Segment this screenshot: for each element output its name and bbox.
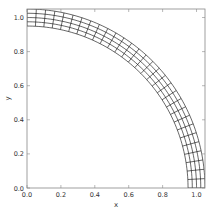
y-tick-label: 0.4 [14,116,24,124]
y-tick-label: 0.8 [14,48,24,56]
y-tick-label: 0.2 [14,150,24,158]
mesh-spoke [69,15,73,31]
y-tick-label: 0.6 [14,82,24,90]
mesh-spoke [135,55,146,68]
mesh-spoke [157,83,171,93]
x-tick-label: 0.2 [56,191,66,199]
x-tick-label: 0.4 [90,191,100,199]
mesh-ring [27,9,205,188]
mesh-spoke [170,107,185,115]
y-tick-label: 1.0 [14,14,24,22]
mesh-ring [27,13,201,188]
mesh-ring [27,22,192,188]
mesh-spoke [122,43,132,57]
x-tick-label: 1.0 [191,191,201,199]
mesh-ring [27,26,188,188]
x-tick-label: 0.8 [157,191,167,199]
y-tick-label: 0.0 [14,185,24,193]
mesh-spoke [128,49,139,62]
x-axis-label: x [114,201,118,209]
axis-ticks: 0.00.20.40.60.81.00.00.20.40.60.81.0 [14,9,205,199]
mesh-spoke [183,142,199,146]
mesh-spoke [180,133,196,138]
mesh-plot: 0.00.20.40.60.81.00.00.20.40.60.81.0 x y [0,0,218,216]
mesh-spoke [147,68,160,79]
mesh-ring [27,18,197,188]
mesh-spoke [77,18,82,34]
x-tick-label: 0.6 [124,191,134,199]
y-axis-label: y [4,96,12,100]
axes-frame [27,9,205,188]
mesh-spoke [100,29,108,44]
mesh-spoke [152,75,165,86]
annulus-mesh [27,9,205,188]
